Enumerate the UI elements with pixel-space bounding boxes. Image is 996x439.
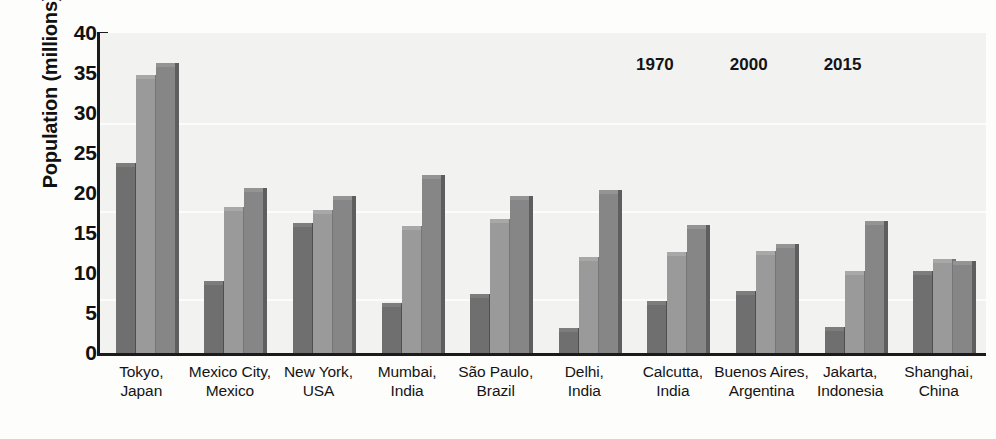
bar-face bbox=[116, 167, 135, 353]
bar bbox=[579, 261, 598, 353]
bar-face bbox=[647, 305, 666, 353]
y-tick-label-30: 30 bbox=[49, 102, 97, 123]
x-axis-label-line1: New York, bbox=[284, 363, 353, 380]
bar bbox=[490, 223, 509, 353]
bar bbox=[293, 227, 312, 353]
bar bbox=[382, 307, 401, 353]
bar bbox=[402, 230, 421, 353]
bar-side bbox=[352, 196, 356, 353]
legend-label-2000: 2000 bbox=[730, 55, 768, 75]
bar bbox=[136, 79, 155, 353]
bar bbox=[776, 248, 795, 353]
bar-face bbox=[293, 227, 312, 353]
bar-face bbox=[204, 285, 223, 353]
bar bbox=[913, 275, 932, 353]
bar-face bbox=[490, 223, 509, 353]
y-tick-label-20: 20 bbox=[49, 182, 97, 203]
bar bbox=[953, 265, 972, 353]
bar-side bbox=[618, 190, 622, 353]
bar bbox=[825, 331, 844, 353]
bar-side bbox=[972, 261, 976, 353]
legend-swatch-2015-icon bbox=[794, 55, 815, 75]
x-axis-label-line1: Delhi, bbox=[565, 363, 604, 380]
bar-face bbox=[333, 200, 352, 353]
legend-swatch-2000-icon bbox=[700, 55, 721, 75]
bar-side bbox=[884, 221, 888, 353]
bar-face bbox=[599, 194, 618, 353]
bar-side bbox=[706, 225, 710, 353]
bar-side bbox=[795, 244, 799, 353]
plot-band bbox=[100, 123, 986, 125]
bar bbox=[116, 167, 135, 353]
bar bbox=[647, 305, 666, 353]
bar-face bbox=[825, 331, 844, 353]
chart-legend: 1970 2000 2015 bbox=[606, 55, 861, 75]
bar bbox=[667, 256, 686, 353]
bar-face bbox=[470, 298, 489, 353]
y-tick-label-25: 25 bbox=[49, 142, 97, 163]
bar bbox=[687, 229, 706, 353]
bar bbox=[333, 200, 352, 353]
bar-face bbox=[224, 211, 243, 353]
bar bbox=[933, 263, 952, 353]
legend-label-1970: 1970 bbox=[636, 55, 674, 75]
bar-face bbox=[933, 263, 952, 353]
bar bbox=[865, 225, 884, 353]
legend-item-2015[interactable]: 2015 bbox=[794, 55, 862, 75]
x-axis-label-line1: Mumbai, bbox=[378, 363, 437, 380]
x-axis-label-line1: São Paulo, bbox=[458, 363, 533, 380]
bar-face bbox=[776, 248, 795, 353]
legend-item-1970[interactable]: 1970 bbox=[606, 55, 674, 75]
y-tick-label-5: 5 bbox=[49, 302, 97, 323]
bar-face bbox=[382, 307, 401, 353]
legend-item-2000[interactable]: 2000 bbox=[700, 55, 768, 75]
x-axis-label-line1: Tokyo, bbox=[119, 363, 163, 380]
bar-face bbox=[579, 261, 598, 353]
bar-face bbox=[865, 225, 884, 353]
plot-inner bbox=[100, 33, 986, 353]
bar bbox=[736, 295, 755, 353]
bar-face bbox=[136, 79, 155, 353]
y-tick-label-15: 15 bbox=[49, 222, 97, 243]
bar-face bbox=[845, 275, 864, 353]
bar-face bbox=[402, 230, 421, 353]
y-tick-label-10: 10 bbox=[49, 262, 97, 283]
bar-face bbox=[913, 275, 932, 353]
y-tick-label-0: 0 bbox=[49, 342, 97, 363]
bar bbox=[204, 285, 223, 353]
bar-side bbox=[175, 63, 179, 353]
population-bar-chart: Population (millions) 0510152025303540 1… bbox=[0, 0, 996, 439]
bar bbox=[422, 179, 441, 353]
bar-face bbox=[687, 229, 706, 353]
bar-face bbox=[244, 192, 263, 353]
bar-side bbox=[263, 188, 267, 353]
bar bbox=[470, 298, 489, 353]
bar bbox=[313, 214, 332, 353]
bar-face bbox=[756, 255, 775, 353]
bar-face bbox=[736, 295, 755, 353]
bar-face bbox=[559, 332, 578, 353]
bar bbox=[156, 67, 175, 353]
x-axis-label-line1: Shanghai, bbox=[904, 363, 973, 380]
y-tick-label-40: 40 bbox=[49, 22, 97, 43]
bar-face bbox=[953, 265, 972, 353]
x-axis-label-line1: Jakarta, bbox=[823, 363, 877, 380]
bar bbox=[244, 192, 263, 353]
plot-area bbox=[97, 33, 986, 356]
x-axis-label-line1: Mexico City, bbox=[189, 363, 271, 380]
bar-face bbox=[510, 200, 529, 353]
x-axis-category-labels: Tokyo,JapanMexico City,MexicoNew York,US… bbox=[97, 362, 983, 422]
bar-face bbox=[667, 256, 686, 353]
legend-swatch-1970-icon bbox=[606, 55, 627, 75]
x-axis-label-line1: Calcutta, bbox=[643, 363, 703, 380]
bar bbox=[845, 275, 864, 353]
y-tick-label-35: 35 bbox=[49, 62, 97, 83]
bar bbox=[559, 332, 578, 353]
bar-side bbox=[441, 175, 445, 353]
x-axis-label-9: Shanghai,China bbox=[882, 362, 995, 400]
bar bbox=[224, 211, 243, 353]
x-axis-label-line2: China bbox=[882, 381, 995, 400]
bar bbox=[756, 255, 775, 353]
bar-face bbox=[313, 214, 332, 353]
bar bbox=[510, 200, 529, 353]
